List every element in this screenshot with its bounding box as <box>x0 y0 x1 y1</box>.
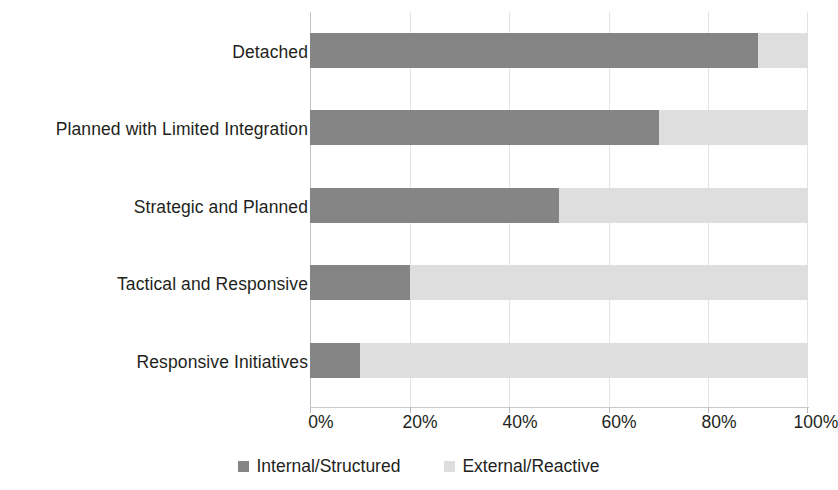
plot-area <box>310 12 808 408</box>
bar-row <box>310 110 808 145</box>
category-label-responsive-initiatives: Responsive Initiatives <box>137 354 308 372</box>
legend-label: External/Reactive <box>462 458 599 476</box>
bar-segment-external-reactive <box>410 265 808 300</box>
bar-segment-internal-structured <box>310 33 758 68</box>
category-label-detached: Detached <box>232 44 308 62</box>
x-axis-tick-label-60: 60% <box>601 414 636 432</box>
category-label-planned-with-limited-integration: Planned with Limited Integration <box>56 121 308 139</box>
x-axis-tick-label-40: 40% <box>502 414 537 432</box>
legend-swatch-icon <box>444 461 455 472</box>
bar-segment-internal-structured <box>310 265 410 300</box>
bar-segment-external-reactive <box>559 188 808 223</box>
bar-row <box>310 343 808 378</box>
chart-legend: Internal/Structured External/Reactive <box>0 458 838 476</box>
bar-segment-internal-structured <box>310 110 659 145</box>
bar-segment-external-reactive <box>758 33 808 68</box>
legend-swatch-icon <box>238 461 249 472</box>
x-axis-line <box>310 407 809 408</box>
category-label-tactical-and-responsive: Tactical and Responsive <box>117 276 308 294</box>
legend-item-external-reactive[interactable]: External/Reactive <box>444 458 599 476</box>
x-axis-tick-label-80: 80% <box>701 414 736 432</box>
x-axis-tick-label-100: 100% <box>794 414 838 432</box>
bar-segment-external-reactive <box>360 343 808 378</box>
bar-segment-external-reactive <box>659 110 808 145</box>
bar-segment-internal-structured <box>310 343 360 378</box>
bar-row <box>310 265 808 300</box>
x-axis-tick-label-20: 20% <box>402 414 437 432</box>
bar-row <box>310 33 808 68</box>
category-label-strategic-and-planned: Strategic and Planned <box>134 199 308 217</box>
x-axis-tick-label-0: 0% <box>308 414 333 432</box>
stacked-bar-chart: Detached Planned with Limited Integratio… <box>0 0 838 490</box>
bar-row <box>310 188 808 223</box>
legend-item-internal-structured[interactable]: Internal/Structured <box>238 458 400 476</box>
bar-segment-internal-structured <box>310 188 559 223</box>
legend-label: Internal/Structured <box>256 458 400 476</box>
